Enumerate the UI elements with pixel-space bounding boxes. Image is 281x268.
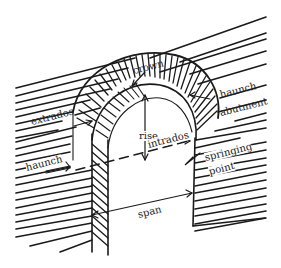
lower-left-wall-courses bbox=[16, 127, 92, 252]
leader-lines bbox=[46, 72, 210, 218]
left-jamb-hatching bbox=[92, 144, 108, 246]
arch-diagram: crown extrados haunch abutment rise intr… bbox=[0, 0, 281, 268]
